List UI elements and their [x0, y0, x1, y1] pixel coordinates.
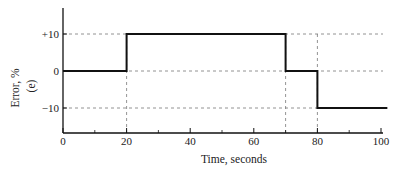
- x-tick-label: 20: [121, 135, 133, 147]
- x-tick-label: 60: [248, 135, 260, 147]
- reference-lines: [63, 34, 383, 133]
- y-axis-label-line2: (e): [25, 79, 38, 92]
- error-step-chart: 020406080100+100−10 Time, seconds Error,…: [0, 0, 407, 176]
- y-tick-label: 0: [54, 65, 60, 77]
- ticks: 020406080100+100−10: [42, 28, 390, 147]
- x-tick-label: 40: [185, 135, 197, 147]
- y-axis-label-line1: Error, %: [9, 68, 22, 108]
- x-tick-label: 0: [60, 135, 66, 147]
- x-tick-label: 100: [373, 135, 390, 147]
- y-tick-label: −10: [42, 102, 60, 114]
- y-tick-label: +10: [42, 28, 60, 40]
- x-tick-label: 80: [312, 135, 324, 147]
- x-axis-label: Time, seconds: [201, 153, 268, 166]
- labels: Time, seconds Error, % (e): [9, 68, 268, 166]
